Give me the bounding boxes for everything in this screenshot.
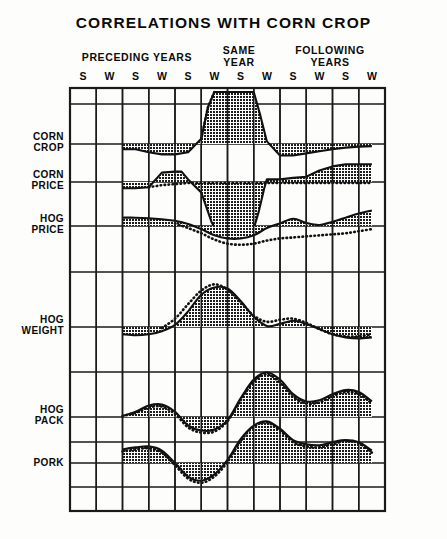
series-hog-pack <box>123 372 372 433</box>
series-fill <box>123 92 372 155</box>
series-pork <box>123 421 372 483</box>
series-hog-weight <box>123 284 372 338</box>
series-corn-crop <box>123 92 372 155</box>
series-fill <box>123 372 372 431</box>
chart-root: CORRELATIONS WITH CORN CROP PRECEDING YE… <box>0 0 447 539</box>
chart-plot-area <box>0 0 447 539</box>
series-fill <box>123 287 372 339</box>
data-series-layer <box>123 92 372 483</box>
